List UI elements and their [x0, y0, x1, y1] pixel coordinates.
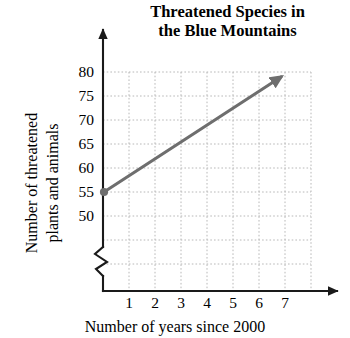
y-tick-label-65: 65: [64, 135, 94, 153]
x-tick-label-2: 2: [147, 294, 163, 312]
x-tick-label-4: 4: [199, 294, 215, 312]
chart-title-line-1: Threatened Species in: [110, 2, 345, 21]
y-axis-label-line-2: plants and animals: [42, 58, 63, 308]
y-axis: [95, 30, 107, 291]
x-tick-label-3: 3: [173, 294, 189, 312]
grid-vertical: [129, 72, 311, 290]
chart-title: Threatened Species in the Blue Mountains: [110, 2, 345, 40]
x-axis-label: Number of years since 2000: [0, 318, 350, 336]
axis-break-zigzag: [95, 247, 107, 276]
data-point-start: [100, 188, 108, 196]
y-tick-label-75: 75: [64, 87, 94, 105]
chart-figure: Threatened Species in the Blue Mountains…: [0, 0, 350, 338]
y-axis-label-line-1: Number of threatened: [21, 58, 42, 308]
data-series-line: [100, 77, 281, 196]
x-tick-label-5: 5: [225, 294, 241, 312]
y-axis-label: Number of threatened plants and animals: [21, 58, 63, 308]
x-tick-label-7: 7: [277, 294, 293, 312]
y-tick-label-80: 80: [64, 63, 94, 81]
y-tick-label-70: 70: [64, 111, 94, 129]
y-tick-label-50: 50: [64, 207, 94, 225]
chart-title-line-2: the Blue Mountains: [110, 21, 345, 40]
x-tick-label-6: 6: [251, 294, 267, 312]
x-tick-label-1: 1: [121, 294, 137, 312]
y-tick-label-55: 55: [64, 183, 94, 201]
y-tick-label-60: 60: [64, 159, 94, 177]
